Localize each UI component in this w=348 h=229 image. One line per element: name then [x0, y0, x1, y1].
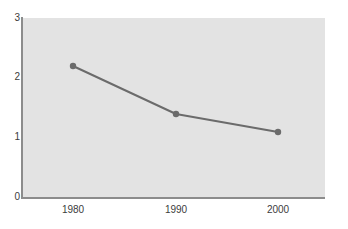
- x-axis-line: [21, 197, 325, 199]
- y-axis-tick-label-2: 2: [6, 72, 20, 82]
- y-axis-line: [21, 17, 23, 199]
- x-axis-tick-label-1990: 1990: [156, 205, 196, 215]
- y-axis-tick-label-1: 1: [6, 132, 20, 142]
- y-axis-tick-label-3: 3: [6, 13, 20, 23]
- x-axis-tick-label-1980: 1980: [53, 205, 93, 215]
- y-axis-tick-label-0: 0: [6, 192, 20, 202]
- x-axis-tick-label-2000: 2000: [258, 205, 298, 215]
- plot-area: [23, 18, 325, 198]
- line-chart-figure: 3 2 1 0 1980 1990 2000: [0, 0, 348, 229]
